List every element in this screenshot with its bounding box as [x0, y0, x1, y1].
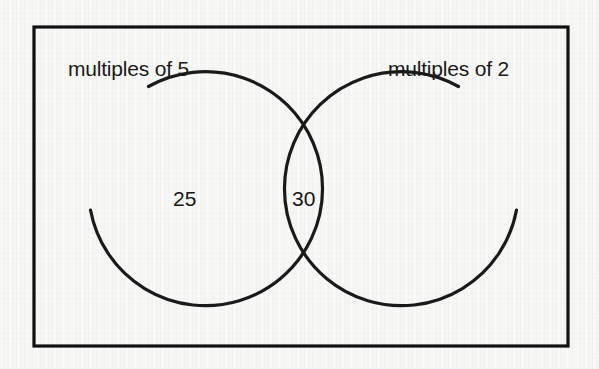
- venn-diagram-figure: multiples of 5 multiples of 2 25 30: [0, 0, 599, 369]
- right-set-circle: [284, 72, 516, 306]
- intersection-region-value: 30: [292, 188, 315, 209]
- venn-diagram-canvas: [0, 0, 599, 369]
- left-set-circle: [91, 72, 323, 306]
- left-only-region-value: 25: [173, 188, 196, 209]
- left-set-label: multiples of 5: [68, 58, 189, 79]
- right-set-label: multiples of 2: [388, 58, 509, 79]
